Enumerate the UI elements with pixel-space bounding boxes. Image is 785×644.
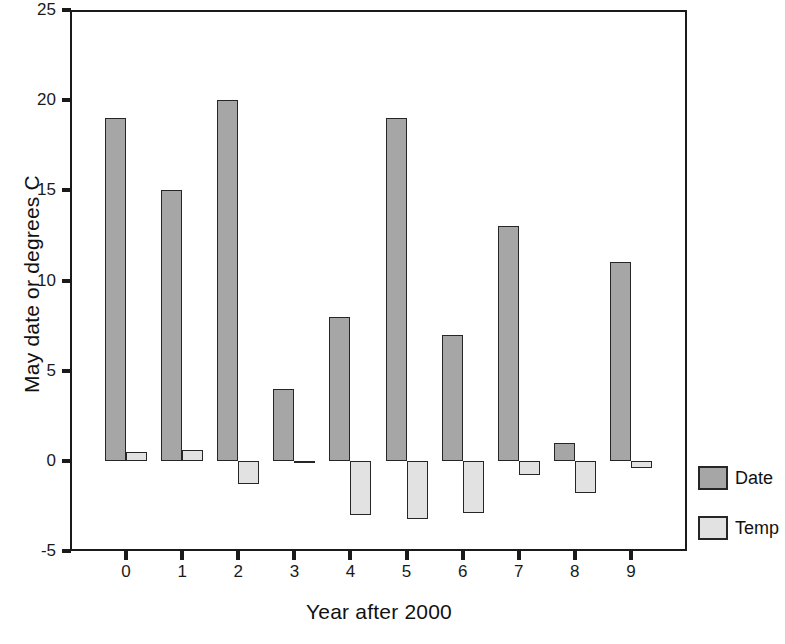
y-axis-tick [62,188,71,192]
y-axis-tick [62,459,71,463]
legend-label-temp: Temp [735,518,779,539]
x-axis-tick [348,551,352,560]
x-axis-tick [180,551,184,560]
y-axis-tick [62,98,71,102]
x-axis-tick-label: 7 [499,562,539,582]
bar-date-9 [610,262,631,460]
x-axis-tick [236,551,240,560]
bar-date-0 [105,118,126,461]
x-axis-tick [629,551,633,560]
bar-temp-1 [182,450,203,461]
x-axis-title: Year after 2000 [70,600,688,624]
bar-temp-6 [463,461,484,513]
legend-swatch-temp [698,516,728,540]
bar-date-7 [498,226,519,460]
y-axis-tick [62,279,71,283]
x-axis-tick [405,551,409,560]
y-axis-tick-label: 0 [0,451,56,471]
y-axis-tick [62,369,71,373]
x-axis-tick-label: 6 [443,562,483,582]
y-axis-tick-label: 15 [0,180,56,200]
x-axis-tick-label: 1 [162,562,202,582]
y-axis-tick-label: 20 [0,90,56,110]
x-axis-tick-label: 4 [330,562,370,582]
x-axis-tick [573,551,577,560]
bar-temp-8 [575,461,596,493]
y-axis-tick-label: 10 [0,271,56,291]
x-axis-tick [124,551,128,560]
y-axis-tick-label: 25 [0,0,56,20]
y-axis-tick [62,549,71,553]
legend-item-temp[interactable]: Temp [698,516,779,540]
bar-temp-5 [407,461,428,519]
x-axis-tick-label: 9 [611,562,651,582]
bar-temp-3 [294,461,315,463]
x-axis-tick-label: 2 [218,562,258,582]
x-axis-tick [517,551,521,560]
bar-date-6 [442,335,463,461]
bar-temp-4 [350,461,371,515]
y-axis-tick-label: -5 [0,541,56,561]
bar-date-2 [217,100,238,461]
y-axis-tick-label: 5 [0,361,56,381]
bar-temp-9 [631,461,652,468]
legend-item-date[interactable]: Date [698,466,773,490]
bar-date-3 [273,389,294,461]
legend-swatch-date [698,466,728,490]
bar-date-5 [386,118,407,461]
x-axis-tick-label: 5 [387,562,427,582]
bar-temp-0 [126,452,147,461]
x-axis-tick [292,551,296,560]
bar-date-1 [161,190,182,461]
bar-temp-2 [238,461,259,484]
y-axis-tick [62,8,71,12]
legend-label-date: Date [735,468,773,489]
bar-chart-figure: May date or degrees C 2520151050-5 01234… [0,0,785,644]
x-axis-tick-label: 0 [106,562,146,582]
x-axis-tick-label: 8 [555,562,595,582]
bar-temp-7 [519,461,540,475]
x-axis-tick-label: 3 [274,562,314,582]
x-axis-tick [461,551,465,560]
bar-date-8 [554,443,575,461]
bar-date-4 [329,317,350,461]
